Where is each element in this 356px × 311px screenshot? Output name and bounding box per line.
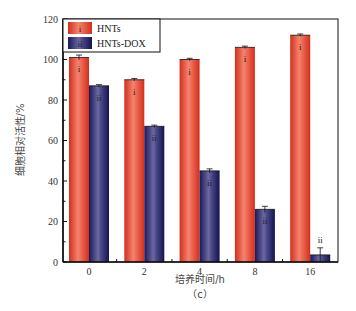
bars: iiiiiiiiiiiiiii	[69, 34, 330, 262]
x-axis-title: 培养时间/h	[175, 273, 225, 285]
x-tick-label: 2	[142, 266, 147, 277]
bar-marker: ii	[96, 93, 102, 103]
bar-hnts-2	[124, 80, 144, 262]
legend: iHNTsiiHNTs-DOX	[63, 19, 160, 52]
bar-hnts-8	[235, 47, 255, 262]
y-tick-label: 120	[43, 14, 58, 25]
bar-marker: ii	[207, 178, 213, 188]
y-tick-label: 100	[43, 54, 58, 65]
x-tick-label: 8	[252, 266, 257, 277]
y-tick-label: 80	[48, 95, 58, 106]
y-axis-title: 细胞相对活性/%	[14, 104, 26, 177]
legend-label-hnts-dox: HNTs-DOX	[97, 38, 147, 49]
bar-hnts-16	[290, 35, 310, 262]
y-tick-label: 0	[53, 257, 58, 268]
bar-hnts-0	[69, 57, 89, 262]
legend-label-hnts: HNTs	[97, 23, 121, 34]
x-tick-label: 16	[305, 266, 315, 277]
figure-caption: （c）	[187, 289, 213, 300]
bar-hnts-4	[180, 60, 200, 263]
y-tick-label: 60	[48, 135, 58, 146]
bar-marker: ii	[262, 216, 268, 226]
y-tick-label: 20	[48, 216, 58, 227]
bar-chart: iiiiiiiiiiiiiii 024816020406080100120 iH…	[0, 0, 356, 311]
bar-marker: ii	[152, 133, 158, 143]
bar-hnts-dox-2	[144, 126, 164, 262]
bar-marker: ii	[318, 235, 324, 245]
y-tick-label: 40	[48, 176, 58, 187]
bar-hnts-dox-0	[89, 86, 109, 262]
legend-marker: ii	[77, 39, 83, 49]
x-tick-label: 0	[87, 266, 92, 277]
